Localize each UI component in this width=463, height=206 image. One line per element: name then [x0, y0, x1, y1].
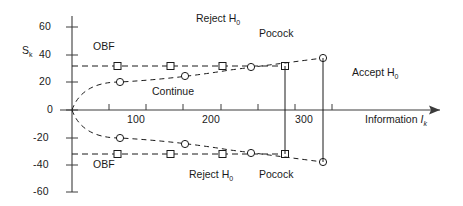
data-marker-square — [167, 63, 174, 70]
data-marker-circle — [181, 140, 188, 147]
data-marker-circle — [247, 149, 254, 156]
x-axis-title: Information Ik — [365, 113, 427, 125]
chart-figure: Sk 60 40 20 0 -20 -40 -60 100 200 300 In… — [0, 0, 463, 206]
annotation-pocock-upper: Pocock — [259, 27, 293, 39]
data-marker-square — [219, 151, 226, 158]
ytick-m60: -60 — [33, 185, 49, 197]
data-marker-circle — [181, 72, 188, 79]
annotation-reject-h0-upper: Reject H0 — [196, 12, 240, 24]
ytick-20: 20 — [39, 75, 51, 87]
ytick-m40: -40 — [33, 158, 49, 170]
ytick-40: 40 — [39, 48, 51, 60]
data-marker-circle — [116, 78, 123, 85]
ytick-m20: -20 — [33, 131, 49, 143]
data-marker-square — [114, 151, 121, 158]
data-marker-circle — [116, 134, 123, 141]
annotation-accept-h0: Accept H0 — [352, 66, 399, 78]
ytick-0: 0 — [47, 103, 53, 115]
data-marker-square — [219, 63, 226, 70]
annotation-obf-upper: OBF — [93, 40, 115, 52]
annotation-obf-lower: OBF — [93, 158, 115, 170]
annotation-continue: Continue — [152, 85, 194, 97]
y-axis-title: Sk — [22, 44, 33, 56]
pocock-lower-series — [72, 151, 289, 158]
y-axis — [66, 16, 78, 192]
obf-upper-series — [72, 54, 327, 110]
annotation-pocock-lower: Pocock — [259, 168, 293, 180]
data-marker-square — [114, 63, 121, 70]
data-marker-circle — [247, 63, 254, 70]
xtick-300: 300 — [295, 113, 313, 125]
annotation-reject-h0-lower: Reject H0 — [189, 168, 233, 180]
ytick-60: 60 — [39, 20, 51, 32]
xtick-200: 200 — [202, 113, 220, 125]
data-marker-square — [167, 151, 174, 158]
xtick-100: 100 — [127, 113, 145, 125]
pocock-upper-series — [72, 63, 289, 70]
